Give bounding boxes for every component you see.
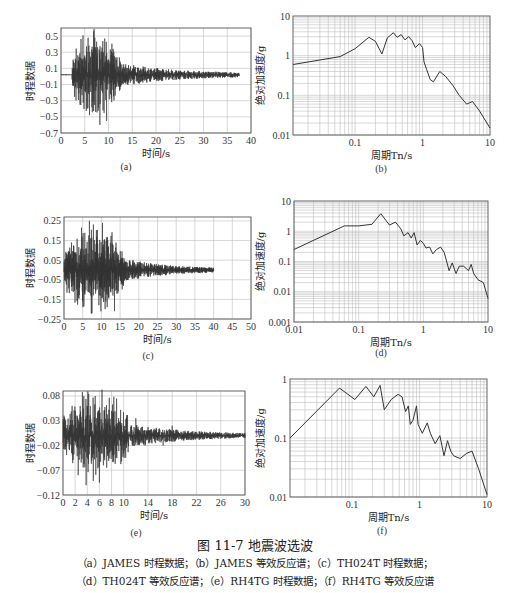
y-tick-label: 1	[282, 374, 287, 385]
y-tick-label: 10	[281, 196, 291, 207]
y-tick-label: 0.08	[43, 390, 61, 401]
x-tick-label: 5	[80, 321, 85, 332]
x-tick-label: 10	[104, 135, 114, 146]
panel-label: (c)	[142, 350, 153, 362]
x-tick-label: 40	[209, 321, 219, 332]
x-tick-label: 1	[421, 324, 426, 335]
y-tick-label: 1	[285, 50, 290, 61]
y-axis-label: 时程数据	[24, 61, 36, 101]
x-tick-label: 50	[246, 321, 256, 332]
y-tick-label: −0.5	[40, 111, 58, 122]
chart-panel-c: 051015202530354045500.250.150.05−0.05−0.…	[24, 215, 256, 362]
x-tick-label: 0.1	[346, 499, 359, 510]
x-tick-label: 8	[109, 497, 114, 508]
figure-caption-line-2: （d）TH024T 等效反应谱；（e）RH4TG 时程数据；（f）RH4TG 等…	[0, 573, 510, 588]
x-tick-label: 26	[216, 497, 226, 508]
chart-panel-f: 0.111010.10.01周期Tn/s绝对加速度/g(f)	[254, 374, 492, 538]
y-tick-label: 0.001	[269, 317, 292, 328]
x-axis-label: 周期Tn/s	[371, 150, 413, 161]
y-axis-label: 绝对加速度/g	[254, 231, 266, 291]
x-tick-label: 35	[190, 321, 200, 332]
x-tick-label: 20	[151, 135, 161, 146]
grid-lines	[290, 379, 487, 497]
y-tick-label: −0.07	[37, 465, 60, 476]
data-series-th024t	[64, 221, 214, 314]
y-axis-label: 绝对加速度/g	[254, 408, 266, 468]
y-tick-label: 10	[280, 11, 290, 22]
panel-label: (b)	[375, 163, 387, 175]
x-axis-label: 时间/s	[140, 509, 169, 521]
grid-lines	[294, 201, 488, 322]
y-tick-label: 0.1	[278, 90, 291, 101]
x-tick-label: 45	[227, 321, 237, 332]
data-series-rh4tg	[290, 385, 487, 494]
y-tick-label: 0.5	[46, 31, 59, 42]
x-axis-label: 时间/s	[143, 333, 172, 345]
y-tick-label: 0.15	[44, 235, 62, 246]
y-tick-label: 0.1	[275, 433, 288, 444]
x-tick-label: 4	[85, 497, 90, 508]
y-axis-label: 时程数据	[24, 248, 36, 288]
chart-panel-a: 05101520253035400.50.30.1−0.1−0.3−0.5−0.…	[24, 28, 256, 173]
x-tick-label: 35	[222, 135, 232, 146]
y-tick-label: 0.3	[46, 47, 59, 58]
y-axis-label: 绝对加速度/g	[254, 45, 266, 105]
y-tick-label: −0.05	[38, 274, 61, 285]
x-tick-label: 30	[199, 135, 209, 146]
y-tick-label: −0.7	[40, 128, 58, 139]
y-tick-label: 0.05	[44, 255, 62, 266]
x-tick-label: 10	[482, 499, 492, 510]
x-tick-label: 25	[175, 135, 185, 146]
y-tick-label: −0.12	[37, 490, 60, 501]
x-tick-label: 10	[485, 137, 495, 148]
x-tick-label: 15	[115, 321, 125, 332]
x-tick-label: 30	[171, 321, 181, 332]
y-tick-label: 1	[286, 226, 291, 237]
x-tick-label: 5	[82, 135, 87, 146]
x-axis-label: 时间/s	[142, 147, 171, 159]
data-series-james	[61, 29, 240, 125]
y-tick-label: −0.15	[38, 294, 61, 305]
chart-panel-b: 0.11101010.10.01周期Tn/s绝对加速度/g(b)	[254, 11, 495, 176]
y-tick-label: −0.1	[40, 79, 58, 90]
x-tick-label: 18	[167, 497, 177, 508]
y-tick-label: −0.02	[37, 440, 60, 451]
y-tick-label: 0.25	[44, 215, 62, 226]
panel-label: (a)	[120, 161, 131, 173]
x-tick-label: 25	[153, 321, 163, 332]
data-series-james	[293, 33, 490, 128]
x-tick-label: 0.1	[352, 324, 365, 335]
y-tick-label: 0.01	[270, 492, 288, 503]
y-axis-label: 时程数据	[24, 423, 36, 463]
x-tick-label: 22	[191, 497, 201, 508]
x-tick-label: 0	[61, 497, 66, 508]
y-tick-label: 0.1	[279, 256, 292, 267]
x-tick-label: 0	[59, 135, 64, 146]
x-tick-label: 20	[134, 321, 144, 332]
data-series-rh4tg	[63, 390, 246, 485]
x-tick-label: 1	[420, 137, 425, 148]
y-tick-label: −0.3	[40, 95, 58, 106]
x-tick-label: 30	[240, 497, 250, 508]
figure-caption-line-1: （a）JAMES 时程数据；（b）JAMES 等效反应谱；（c）TH024T 时…	[0, 555, 510, 570]
y-tick-label: 0.01	[274, 286, 292, 297]
figure-title: 图 11-7 地震波选波	[0, 535, 510, 554]
x-tick-label: 14	[143, 497, 153, 508]
figure-canvas: 05101520253035400.50.30.1−0.1−0.3−0.5−0.…	[0, 0, 510, 593]
x-tick-label: 15	[127, 135, 137, 146]
x-tick-label: 10	[96, 321, 106, 332]
panel-label: (d)	[375, 347, 387, 359]
y-tick-label: 0.03	[43, 415, 61, 426]
y-tick-label: −0.25	[38, 314, 61, 325]
chart-panel-d: 0.010.11101010.10.010.001周期Tn/s绝对加速度/g(d…	[254, 196, 493, 360]
x-tick-label: 2	[73, 497, 78, 508]
x-tick-label: 6	[97, 497, 102, 508]
y-tick-label: 0.1	[46, 63, 59, 74]
x-tick-label: 0	[62, 321, 67, 332]
chart-panel-e: 024681014182226300.080.03−0.02−0.07−0.12…	[24, 390, 250, 539]
y-tick-label: 0.01	[273, 130, 291, 141]
x-tick-label: 0.1	[349, 137, 362, 148]
x-axis-label: 周期Tn/s	[368, 512, 410, 523]
data-series-th024t	[294, 214, 488, 299]
x-tick-label: 10	[483, 324, 493, 335]
